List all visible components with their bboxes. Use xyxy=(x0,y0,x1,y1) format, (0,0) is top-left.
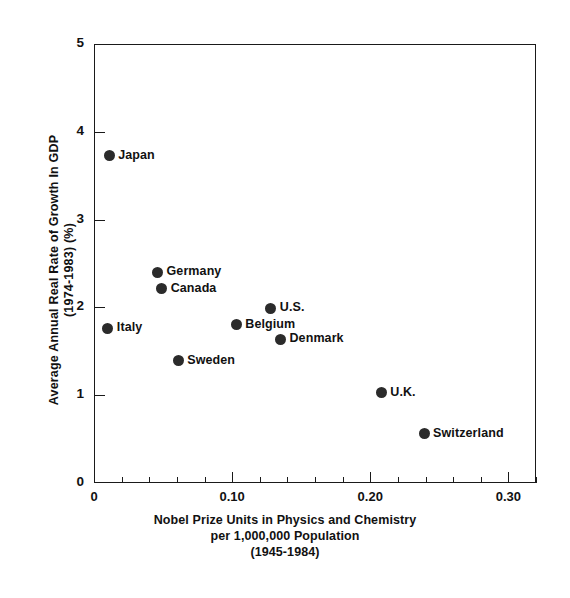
data-point[interactable] xyxy=(265,303,276,314)
x-axis-minor-tick xyxy=(287,477,288,483)
data-point[interactable] xyxy=(152,267,163,278)
data-point-label: U.K. xyxy=(390,385,415,399)
y-axis-title-line-1: Average Annual Real Rate of Growth In GD… xyxy=(47,135,62,406)
y-axis-tick-label: 0 xyxy=(58,474,84,489)
data-point[interactable] xyxy=(104,150,115,161)
x-axis-minor-tick xyxy=(453,477,454,483)
y-axis-tick xyxy=(94,307,105,308)
y-axis-tick-label: 1 xyxy=(58,386,84,401)
y-axis-tick xyxy=(94,395,105,396)
x-axis-title-line-2: per 1,000,000 Population xyxy=(0,528,570,544)
data-point-label: Italy xyxy=(117,320,143,334)
x-axis-minor-tick xyxy=(426,477,427,483)
data-point[interactable] xyxy=(376,387,387,398)
x-axis-minor-tick xyxy=(343,477,344,483)
data-point-label: Canada xyxy=(171,281,217,295)
x-axis-tick xyxy=(508,472,509,483)
x-axis-minor-tick xyxy=(398,477,399,483)
x-axis-title-line-1: Nobel Prize Units in Physics and Chemist… xyxy=(0,512,570,528)
x-axis-tick xyxy=(232,472,233,483)
x-axis-tick-label: 0 xyxy=(69,489,119,504)
x-axis-tick-label: 0.10 xyxy=(207,489,257,504)
data-point-label: Sweden xyxy=(187,353,235,367)
data-point-label: Japan xyxy=(118,148,155,162)
data-point-label: Belgium xyxy=(245,317,295,331)
x-axis-minor-tick xyxy=(205,477,206,483)
x-axis-minor-tick xyxy=(177,477,178,483)
x-axis-minor-tick xyxy=(315,477,316,483)
data-point[interactable] xyxy=(419,428,430,439)
y-axis-tick-label: 2 xyxy=(58,298,84,313)
data-point-label: Germany xyxy=(167,264,222,278)
x-axis-title-line-3: (1945-1984) xyxy=(0,544,570,560)
x-axis-tick-label: 0.20 xyxy=(345,489,395,504)
x-axis-minor-tick xyxy=(260,477,261,483)
plot-area xyxy=(94,44,536,483)
x-axis-tick-label: 0.30 xyxy=(483,489,533,504)
x-axis-minor-tick xyxy=(536,477,537,483)
y-axis-tick xyxy=(94,132,105,133)
data-point-label: Denmark xyxy=(289,331,343,345)
x-axis-minor-tick xyxy=(481,477,482,483)
scatter-chart-figure: Average Annual Real Rate of Growth In GD… xyxy=(0,0,570,598)
x-axis-title: Nobel Prize Units in Physics and Chemist… xyxy=(0,512,570,560)
x-axis-minor-tick xyxy=(149,477,150,483)
data-point-label: Switzerland xyxy=(433,426,504,440)
x-axis-minor-tick xyxy=(122,477,123,483)
y-axis-tick xyxy=(94,220,105,221)
y-axis-tick-label: 3 xyxy=(58,211,84,226)
data-point[interactable] xyxy=(275,334,286,345)
x-axis-tick xyxy=(370,472,371,483)
data-point-label: U.S. xyxy=(280,300,305,314)
y-axis-tick-label: 4 xyxy=(58,123,84,138)
y-axis-tick-label: 5 xyxy=(58,35,84,50)
